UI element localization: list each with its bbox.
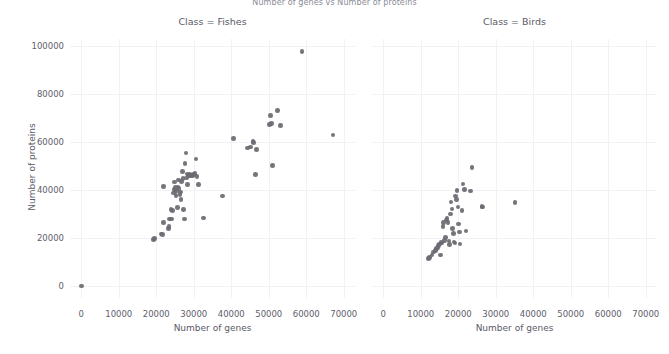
gridline-horizontal bbox=[372, 238, 657, 239]
gridline-horizontal bbox=[372, 142, 657, 143]
x-tick-label: 30000 bbox=[482, 309, 509, 319]
y-axis-title: Number of proteins bbox=[27, 0, 37, 354]
data-point bbox=[231, 136, 236, 141]
x-tick-label: 20000 bbox=[143, 309, 170, 319]
gridline-vertical bbox=[496, 39, 497, 298]
x-tick-label: 10000 bbox=[407, 309, 434, 319]
y-tick-label: 0 bbox=[59, 281, 64, 291]
gridline-vertical bbox=[231, 39, 232, 298]
data-point bbox=[453, 241, 458, 246]
data-point bbox=[161, 184, 166, 189]
gridline-horizontal bbox=[70, 190, 355, 191]
x-tick-label: 0 bbox=[79, 309, 84, 319]
gridline-vertical bbox=[383, 39, 384, 298]
gridline-vertical bbox=[119, 39, 120, 298]
data-point bbox=[456, 222, 461, 227]
data-point bbox=[201, 216, 206, 221]
data-point bbox=[275, 108, 280, 113]
data-point bbox=[462, 187, 467, 192]
data-point bbox=[331, 133, 336, 138]
data-point bbox=[448, 212, 453, 217]
data-point bbox=[460, 208, 465, 213]
data-point bbox=[300, 49, 305, 54]
data-point bbox=[170, 208, 175, 213]
data-point bbox=[450, 207, 455, 212]
data-point bbox=[160, 232, 165, 237]
data-point bbox=[183, 161, 188, 166]
x-tick-label: 60000 bbox=[293, 309, 320, 319]
data-point bbox=[268, 113, 273, 118]
data-point bbox=[451, 231, 456, 236]
plot-area bbox=[372, 39, 657, 298]
panel-birds: Class = Birds 01000020000300004000050000… bbox=[372, 0, 657, 354]
data-point bbox=[185, 182, 190, 187]
data-point bbox=[169, 217, 174, 222]
data-point bbox=[254, 147, 259, 152]
gridline-vertical bbox=[81, 39, 82, 298]
x-tick-label: 70000 bbox=[632, 309, 659, 319]
gridline-vertical bbox=[269, 39, 270, 298]
data-point bbox=[220, 194, 225, 199]
data-point bbox=[196, 182, 201, 187]
data-point bbox=[450, 226, 455, 231]
data-point bbox=[195, 174, 200, 179]
gridline-horizontal bbox=[70, 46, 355, 47]
panel-fishes: Class = Fishes 0100002000030000400005000… bbox=[70, 0, 355, 354]
x-axis-title: Number of genes bbox=[372, 323, 657, 333]
gridline-vertical bbox=[194, 39, 195, 298]
x-tick-label: 50000 bbox=[255, 309, 282, 319]
x-tick-label: 0 bbox=[381, 309, 386, 319]
data-point bbox=[178, 190, 183, 195]
data-point bbox=[449, 200, 454, 205]
data-point bbox=[175, 205, 180, 210]
data-point bbox=[270, 163, 275, 168]
data-point bbox=[161, 220, 166, 225]
data-point bbox=[182, 217, 187, 222]
gridline-vertical bbox=[306, 39, 307, 298]
data-point bbox=[79, 284, 84, 289]
data-point bbox=[513, 200, 518, 205]
y-tick-label: 20000 bbox=[37, 233, 64, 243]
gridline-horizontal bbox=[70, 238, 355, 239]
data-point bbox=[278, 123, 283, 128]
panel-fishes-title: Class = Fishes bbox=[70, 16, 355, 27]
data-point bbox=[441, 224, 446, 229]
x-tick-label: 20000 bbox=[445, 309, 472, 319]
gridline-vertical bbox=[571, 39, 572, 298]
data-point bbox=[253, 172, 258, 177]
data-point bbox=[461, 182, 466, 187]
data-point bbox=[167, 224, 172, 229]
data-point bbox=[464, 229, 469, 234]
data-point bbox=[480, 205, 485, 210]
gridline-vertical bbox=[458, 39, 459, 298]
data-point bbox=[468, 189, 473, 194]
y-tick-label: 40000 bbox=[37, 185, 64, 195]
data-point bbox=[446, 220, 451, 225]
x-tick-label: 30000 bbox=[180, 309, 207, 319]
data-point bbox=[454, 197, 459, 202]
x-tick-label: 40000 bbox=[218, 309, 245, 319]
data-point bbox=[179, 197, 184, 202]
x-tick-label: 70000 bbox=[330, 309, 357, 319]
data-point bbox=[184, 151, 189, 156]
x-axis-title: Number of genes bbox=[70, 323, 355, 333]
data-point bbox=[458, 242, 463, 247]
gridline-vertical bbox=[421, 39, 422, 298]
data-point bbox=[269, 121, 274, 126]
gridline-vertical bbox=[533, 39, 534, 298]
gridline-vertical bbox=[608, 39, 609, 298]
gridline-vertical bbox=[156, 39, 157, 298]
plot-area bbox=[70, 39, 355, 298]
y-tick-label: 60000 bbox=[37, 137, 64, 147]
data-point bbox=[181, 207, 186, 212]
gridline-horizontal bbox=[372, 286, 657, 287]
data-point bbox=[470, 165, 475, 170]
gridline-vertical bbox=[344, 39, 345, 298]
gridline-horizontal bbox=[70, 286, 355, 287]
gridline-horizontal bbox=[372, 46, 657, 47]
data-point bbox=[457, 230, 462, 235]
data-point bbox=[455, 188, 460, 193]
y-tick-label: 80000 bbox=[37, 89, 64, 99]
scatter-figure: Number of genes vs Number of proteins Cl… bbox=[0, 0, 669, 354]
gridline-horizontal bbox=[70, 94, 355, 95]
